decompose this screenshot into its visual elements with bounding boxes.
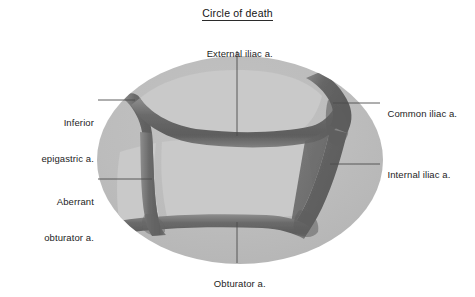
central-compartment-field [161, 138, 312, 221]
label-external-iliac-text: External iliac a. [207, 48, 273, 59]
label-inferior-epigastric: Inferior epigastric a. [2, 93, 94, 177]
label-inferior-epigastric-line1: Inferior [2, 117, 94, 129]
label-aberrant-obturator-line1: Aberrant [2, 196, 94, 208]
label-common-iliac-text: Common iliac a. [387, 108, 457, 119]
label-aberrant-obturator-line2: obturator a. [2, 232, 94, 244]
label-aberrant-obturator: Aberrant obturator a. [2, 172, 94, 256]
label-obturator-text: Obturator a. [214, 278, 266, 289]
label-external-iliac: External iliac a. [162, 36, 312, 60]
label-internal-iliac-text: Internal iliac a. [387, 169, 450, 180]
label-common-iliac: Common iliac a. [382, 96, 475, 120]
label-internal-iliac: Internal iliac a. [382, 157, 475, 181]
label-inferior-epigastric-line2: epigastric a. [2, 153, 94, 165]
label-obturator: Obturator a. [155, 266, 319, 290]
